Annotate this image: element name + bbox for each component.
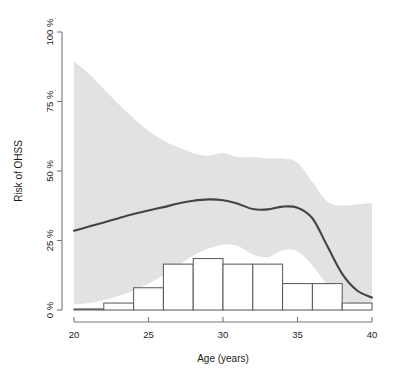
histogram-bar xyxy=(74,309,104,310)
histogram-bar xyxy=(223,264,253,310)
y-tick-label: 25 % xyxy=(44,229,55,251)
histogram-bar xyxy=(312,284,342,310)
x-axis-title: Age (years) xyxy=(197,353,249,364)
histogram-bar xyxy=(342,303,372,310)
histogram-bar xyxy=(283,284,313,310)
histogram-bar xyxy=(134,288,164,310)
histogram-bar xyxy=(193,259,223,310)
x-tick-label: 30 xyxy=(218,329,229,340)
histogram-bar xyxy=(253,264,283,310)
x-tick-label: 35 xyxy=(292,329,303,340)
y-tick-label: 50 % xyxy=(44,160,55,182)
y-axis-title: Risk of OHSS xyxy=(13,140,24,202)
x-tick-label: 25 xyxy=(143,329,154,340)
risk-of-ohss-chart: 0 %25 %50 %75 %100 % 2025303540 Risk of … xyxy=(0,0,395,381)
histogram-bar xyxy=(163,264,193,310)
y-tick-label: 0 % xyxy=(44,301,55,318)
y-tick-label: 75 % xyxy=(44,90,55,112)
x-tick-label: 40 xyxy=(367,329,378,340)
histogram-bar xyxy=(104,303,134,310)
x-tick-label: 20 xyxy=(69,329,80,340)
y-tick-label: 100 % xyxy=(44,18,55,45)
chart-figure: 0 %25 %50 %75 %100 % 2025303540 Risk of … xyxy=(0,0,395,381)
